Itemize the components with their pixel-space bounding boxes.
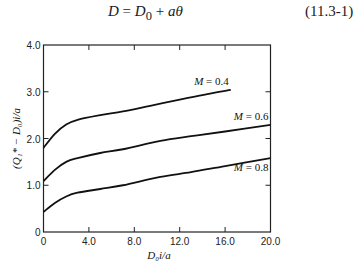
y-tick-label: 2.0 [27, 134, 41, 145]
x-axis-title: D₀i/a [146, 249, 171, 261]
curve-04 [44, 90, 231, 148]
y-tick-label: 3.0 [27, 87, 41, 98]
x-tick-label: 20.0 [261, 236, 281, 247]
x-tick-label: 12.0 [170, 236, 190, 247]
curves [44, 90, 271, 212]
labels: 04.08.012.016.020.001.02.03.04.0M = 0.4M… [10, 40, 281, 261]
curve-label: M = 0.8 [233, 161, 269, 173]
chart: 04.08.012.016.020.001.02.03.04.0M = 0.4M… [0, 0, 357, 266]
curve-label: M = 0.6 [233, 110, 269, 122]
y-tick-label: 0 [35, 227, 41, 238]
y-tick-label: 1.0 [27, 180, 41, 191]
x-tick-label: 0 [41, 236, 47, 247]
curve-label: M = 0.4 [193, 75, 229, 87]
plot-border [44, 45, 271, 232]
x-tick-label: 8.0 [127, 236, 141, 247]
y-axis-title: (Q₁* − D₀)i/a [10, 108, 23, 169]
x-tick-label: 16.0 [215, 236, 235, 247]
x-tick-label: 4.0 [82, 236, 96, 247]
axis-ticks [44, 45, 271, 232]
y-tick-label: 4.0 [27, 40, 41, 51]
plot-frame [44, 45, 271, 232]
